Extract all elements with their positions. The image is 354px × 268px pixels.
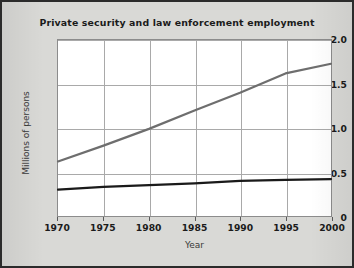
- x-axis-tick-label: 1975: [90, 222, 116, 233]
- x-axis-tick-mark: [149, 217, 150, 221]
- x-axis-tick-label: 2000: [319, 222, 345, 233]
- x-axis-tick-mark: [240, 217, 241, 221]
- chart-title: Private security and law enforcement emp…: [2, 17, 352, 28]
- x-axis-tick-label: 1985: [182, 222, 208, 233]
- x-axis-tick-label: 1990: [228, 222, 254, 233]
- x-axis-title: Year: [57, 240, 332, 250]
- series-line: [58, 179, 331, 190]
- plot-area: [57, 39, 332, 217]
- x-axis-tick-mark: [195, 217, 196, 221]
- chart-figure: Private security and law enforcement emp…: [0, 0, 354, 268]
- x-axis-tick-mark: [286, 217, 287, 221]
- x-axis-tick-label: 1995: [273, 222, 299, 233]
- x-axis-tick-mark: [57, 217, 58, 221]
- x-axis-tick-mark: [103, 217, 104, 221]
- series-lines: [58, 40, 331, 216]
- y-axis-title: Millions of persons: [21, 73, 31, 193]
- x-axis-tick-label: 1970: [44, 222, 70, 233]
- x-axis-tick-mark: [332, 217, 333, 221]
- series-line: [58, 64, 331, 162]
- x-axis-tick-label: 1980: [136, 222, 162, 233]
